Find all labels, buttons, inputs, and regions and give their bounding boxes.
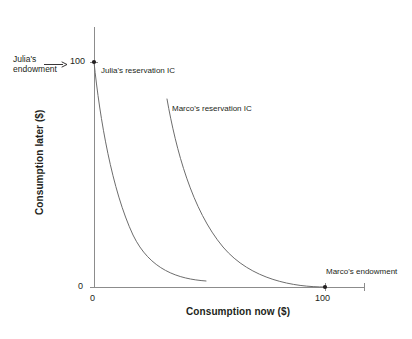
point-marco-endowment (323, 285, 327, 289)
curve-marco-reservation-ic (167, 99, 325, 287)
point-julia-endowment (92, 60, 96, 64)
marco-reservation-ic-label: Marco's reservation IC (172, 104, 252, 113)
julia-endowment-annotation-line1: Julia's (13, 54, 36, 64)
julia-endowment-annotation-line2: endowment (13, 65, 57, 75)
x-axis-tick-label-100: 100 (315, 293, 330, 303)
curve-julia-reservation-ic (94, 62, 206, 281)
julia-endowment-annotation: Julia's endowment (13, 55, 57, 75)
chart-plot-area (0, 0, 412, 339)
indifference-curve-figure: Julia's endowment Marco's endowment Juli… (0, 0, 412, 339)
y-axis-title: Consumption later ($) (34, 110, 46, 215)
y-axis-tick-label-0: 0 (78, 281, 83, 291)
x-axis-title: Consumption now ($) (186, 306, 290, 318)
julia-reservation-ic-label: Julia's reservation IC (101, 66, 175, 75)
y-axis-tick-label-100: 100 (70, 56, 85, 66)
marco-endowment-annotation: Marco's endowment (326, 267, 397, 276)
x-axis-tick-label-0: 0 (90, 293, 95, 303)
